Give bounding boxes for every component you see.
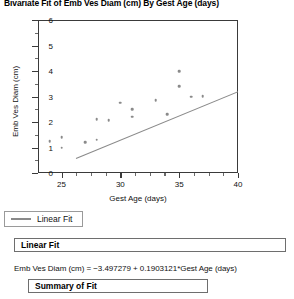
x-axis-title: Gest Age (days) <box>38 194 238 203</box>
x-tick-minor <box>76 173 77 176</box>
y-tick-minor <box>35 160 38 161</box>
data-point <box>96 139 99 142</box>
x-tick <box>62 173 63 178</box>
y-tick-minor <box>35 33 38 34</box>
y-tick-minor <box>35 109 38 110</box>
y-tick-label: 4 <box>49 67 53 76</box>
x-tick-label: 30 <box>116 180 125 189</box>
y-tick-label: 0 <box>49 169 53 178</box>
y-axis-title: Emb Ves Diam (cm) <box>11 47 20 157</box>
data-point <box>201 95 204 98</box>
data-point <box>178 70 181 73</box>
linear-fit-equation: Emb Ves Diam (cm) = −3.497279 + 0.190312… <box>14 264 237 273</box>
page-title: Bivariate Fit of Emb Ves Diam (cm) By Ge… <box>4 0 219 8</box>
legend-label-linear-fit: Linear Fit <box>37 214 72 224</box>
x-tick <box>179 173 180 178</box>
y-tick-minor <box>35 135 38 136</box>
data-point <box>154 99 157 102</box>
data-point <box>178 85 181 88</box>
y-tick <box>32 148 38 149</box>
x-tick-label: 25 <box>57 180 66 189</box>
data-point <box>131 116 134 119</box>
data-point <box>166 113 169 116</box>
y-tick-label: 5 <box>49 41 53 50</box>
x-tick-minor <box>91 173 92 176</box>
y-tick <box>32 71 38 72</box>
x-tick-minor <box>135 173 136 176</box>
y-tick-label: 1 <box>49 143 53 152</box>
summary-of-fit-panel-header[interactable]: Summary of Fit <box>28 279 208 293</box>
x-tick-minor <box>150 173 151 176</box>
y-tick-label: 6 <box>49 16 53 25</box>
x-tick-minor <box>194 173 195 176</box>
y-tick <box>32 46 38 47</box>
scatter-plot: 0123456 25303540 Emb Ves Diam (cm) Gest … <box>0 12 294 194</box>
x-tick-label: 35 <box>175 180 184 189</box>
y-tick <box>32 20 38 21</box>
data-point <box>190 95 193 98</box>
y-tick <box>32 97 38 98</box>
x-tick <box>238 173 239 178</box>
y-tick-label: 3 <box>49 92 53 101</box>
data-point <box>131 108 134 111</box>
chart-legend: Linear Fit <box>4 211 83 227</box>
y-tick <box>32 122 38 123</box>
data-point <box>60 136 63 139</box>
data-point <box>107 119 110 122</box>
x-tick-minor <box>209 173 210 176</box>
x-tick-minor <box>223 173 224 176</box>
legend-line-swatch <box>11 218 31 219</box>
y-tick-minor <box>35 58 38 59</box>
data-point <box>84 141 87 144</box>
data-point <box>119 102 122 105</box>
linear-fit-line <box>76 28 238 173</box>
plot-canvas <box>38 20 238 173</box>
x-tick <box>120 173 121 178</box>
x-tick-minor <box>164 173 165 176</box>
y-tick-minor <box>35 84 38 85</box>
x-tick-minor <box>106 173 107 176</box>
y-tick <box>32 173 38 174</box>
data-point <box>60 146 63 149</box>
data-point <box>96 118 99 121</box>
x-tick-label: 40 <box>234 180 243 189</box>
linear-fit-panel-header[interactable]: Linear Fit <box>14 238 286 252</box>
bivariate-fit-report: Bivariate Fit of Emb Ves Diam (cm) By Ge… <box>0 0 294 299</box>
y-tick-label: 2 <box>49 118 53 127</box>
